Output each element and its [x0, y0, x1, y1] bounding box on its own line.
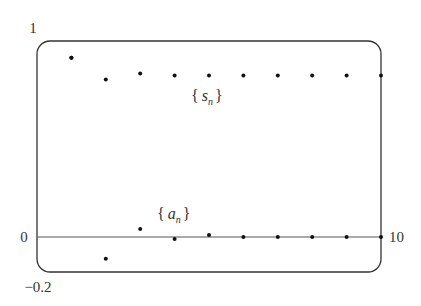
a-data-point: [138, 227, 142, 231]
s-data-point: [310, 74, 314, 78]
a-data-point: [69, 56, 73, 60]
brace-close: }: [215, 87, 223, 104]
a-series-points: [69, 56, 383, 261]
brace-open: {: [191, 87, 199, 104]
s-data-point: [104, 77, 108, 81]
s-data-point: [379, 74, 383, 78]
s-data-point: [345, 74, 349, 78]
a-data-point: [276, 235, 280, 239]
brace-open: {: [157, 205, 165, 222]
x-tick-label-right: 10: [389, 229, 404, 245]
a-subscript: n: [176, 214, 181, 225]
s-data-point: [241, 74, 245, 78]
y-tick-label-top: 1: [29, 20, 37, 36]
s-subscript: n: [208, 96, 213, 107]
a-series-label: {an}: [157, 205, 190, 225]
y-tick-label-zero: 0: [20, 229, 28, 245]
s-series-label: {sn}: [191, 87, 223, 107]
s-data-point: [138, 72, 142, 76]
a-data-point: [104, 257, 108, 261]
a-data-point: [310, 235, 314, 239]
brace-close: }: [183, 205, 191, 222]
a-data-point: [379, 235, 383, 239]
a-data-point: [207, 233, 211, 237]
s-series-points: [69, 56, 383, 82]
y-tick-label-bottom: −0.2: [24, 279, 51, 295]
a-data-point: [345, 235, 349, 239]
s-data-point: [173, 74, 177, 78]
s-data-point: [207, 74, 211, 78]
a-data-point: [241, 235, 245, 239]
sequence-series-chart: 1 0 −0.2 10 {sn} {an}: [0, 0, 421, 306]
a-letter: a: [168, 205, 176, 222]
a-data-point: [173, 237, 177, 241]
s-data-point: [276, 74, 280, 78]
